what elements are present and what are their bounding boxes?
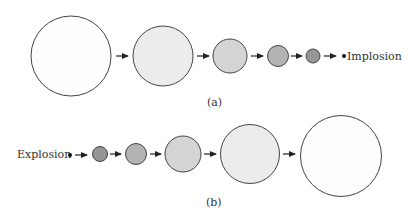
panel-a: Implosion (a) <box>31 16 402 109</box>
panel-b-circle-3 <box>165 136 201 172</box>
implosion-explosion-diagram: Implosion (a) Explosion (b) <box>0 0 413 221</box>
caption-a: (a) <box>207 96 222 109</box>
panel-a-circle-2 <box>133 26 193 86</box>
panel-b-circle-5 <box>301 116 382 197</box>
panel-b: Explosion (b) <box>17 116 382 210</box>
point-dot-icon <box>68 153 72 157</box>
caption-b: (b) <box>206 196 222 209</box>
panel-b-circle-4 <box>221 125 280 184</box>
panel-b-circle-2 <box>126 144 147 165</box>
panel-a-circle-4 <box>268 46 289 67</box>
panel-a-circle-1 <box>31 16 111 96</box>
explosion-label: Explosion <box>17 148 71 161</box>
panel-a-circle-5 <box>306 49 320 63</box>
panel-a-circle-3 <box>213 39 247 73</box>
panel-b-circle-1 <box>93 147 108 162</box>
point-dot-icon <box>342 54 346 58</box>
implosion-label: Implosion <box>347 50 402 63</box>
